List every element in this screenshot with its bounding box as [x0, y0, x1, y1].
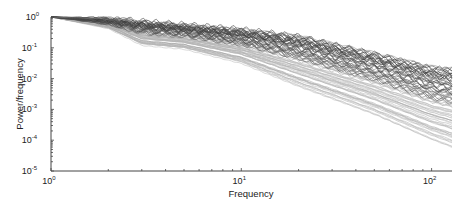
x-tick-label: 101	[233, 175, 247, 186]
x-tick-label: 100	[42, 175, 56, 186]
y-tick-label: 10-5	[22, 165, 38, 176]
y-tick-label: 10-1	[22, 42, 38, 53]
x-minor-ticks	[51, 168, 432, 171]
x-tick-labels: 100101102	[42, 175, 437, 186]
y-axis-label: Power/frequency	[14, 58, 25, 130]
psd-chart: 100101102 10010-110-210-310-410-5 Freque…	[0, 0, 468, 211]
y-tick-label: 10-4	[22, 134, 38, 145]
x-tick-label: 102	[423, 175, 437, 186]
spectra-lines	[51, 17, 452, 148]
y-tick-label: 100	[26, 11, 40, 22]
x-axis-label: Frequency	[229, 188, 274, 199]
